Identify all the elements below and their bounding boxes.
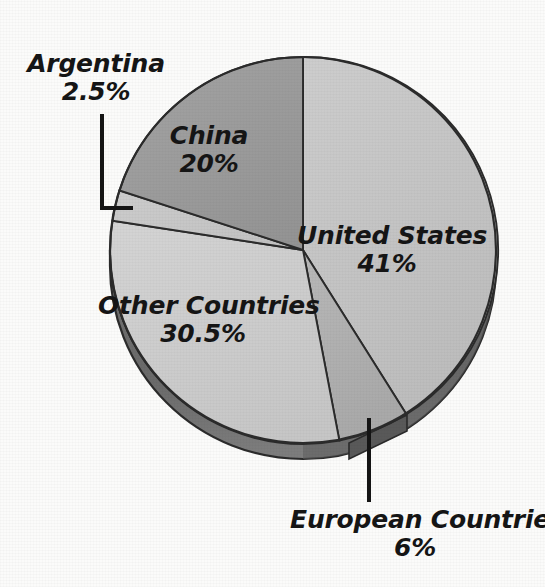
slice-label-china-name: China — [150, 122, 268, 150]
pie-chart-figure: Argentina 2.5% China 20% United States 4… — [0, 0, 545, 587]
slice-label-european-countries: European Countries 6% — [290, 506, 540, 563]
slice-label-other-countries-name: Other Countries — [98, 292, 308, 320]
slice-label-other-countries: Other Countries 30.5% — [98, 292, 308, 349]
slice-label-united-states: United States 41% — [297, 222, 477, 279]
slice-label-united-states-value: 41% — [297, 250, 477, 278]
slice-label-other-countries-value: 30.5% — [98, 320, 308, 348]
slice-label-argentina: Argentina 2.5% — [16, 50, 176, 107]
slice-label-argentina-value: 2.5% — [16, 78, 176, 106]
slice-label-european-countries-value: 6% — [290, 534, 540, 562]
slice-label-european-countries-name: European Countries — [290, 506, 540, 534]
slice-label-united-states-name: United States — [297, 222, 477, 250]
slice-label-china-value: 20% — [150, 150, 268, 178]
slice-label-china: China 20% — [150, 122, 268, 179]
slice-label-argentina-name: Argentina — [16, 50, 176, 78]
